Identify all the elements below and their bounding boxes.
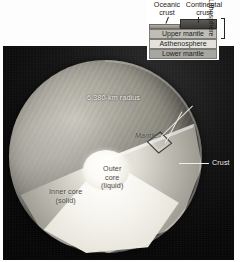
mantle-label: Mantle (135, 132, 157, 141)
radius-label: 6,380-km radius (87, 94, 140, 103)
crust-leader-line (179, 163, 209, 164)
figure-canvas: 6,380-km radius Mantle Outer core (liqui… (0, 0, 240, 262)
lithosphere-bracket (221, 18, 225, 39)
lithosphere-label: Lithosphere (205, 0, 216, 61)
crust-label: Crust (212, 159, 230, 168)
oceanic-crust-label: Oceanic crust (150, 1, 184, 18)
earth-diagram-plate: 6,380-km radius Mantle Outer core (liqui… (3, 46, 234, 260)
continental-crust-label: Continental crust (184, 1, 224, 18)
continental-crust-leader (198, 17, 199, 23)
outer-core-label: Outer core (liquid) (101, 165, 123, 191)
inner-core-label: Inner core (solid) (49, 188, 82, 205)
